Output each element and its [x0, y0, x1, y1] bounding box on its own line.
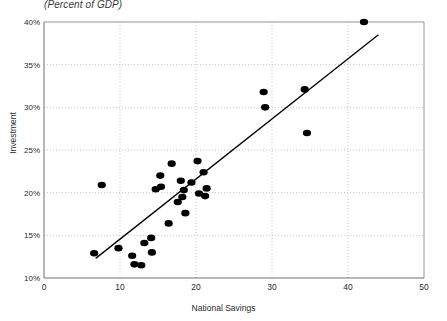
data-points — [90, 19, 368, 269]
trend-line — [96, 35, 379, 259]
plot-canvas — [0, 0, 447, 321]
scatter-chart: (Percent of GDP) Investment National Sav… — [0, 0, 447, 321]
gridlines — [44, 22, 424, 278]
